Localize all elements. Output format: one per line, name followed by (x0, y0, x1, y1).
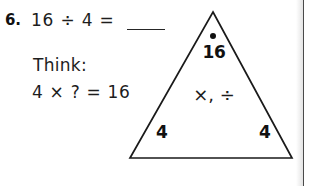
triangle-right-factor-value: 4 (253, 122, 277, 142)
triangle-left-factor-value: 4 (150, 122, 174, 142)
problem-number: 6. (5, 11, 21, 29)
think-label: Think: (33, 55, 87, 75)
page-edge-shadow (296, 0, 303, 186)
fact-family-triangle: 16 ×, ÷ 4 4 (124, 5, 300, 167)
triangle-operators-label: ×, ÷ (186, 84, 242, 105)
division-equation: 16 ÷ 4 = (31, 10, 115, 30)
triangle-product-value: 16 (196, 42, 232, 62)
worksheet-page: 6. 16 ÷ 4 = Think: 4 × ? = 16 16 ×, ÷ 4 … (0, 0, 316, 186)
page-edge-rule (303, 0, 304, 186)
think-multiplication-equation: 4 × ? = 16 (32, 82, 131, 102)
dot-marker-icon (210, 33, 216, 39)
